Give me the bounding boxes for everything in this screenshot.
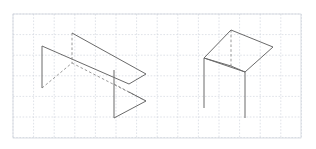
- isometric-sketch: Isometric line drawing of two wireframe …: [0, 0, 316, 149]
- canvas-background: [0, 0, 316, 149]
- drawing-canvas: Isometric line drawing of two wireframe …: [0, 0, 316, 149]
